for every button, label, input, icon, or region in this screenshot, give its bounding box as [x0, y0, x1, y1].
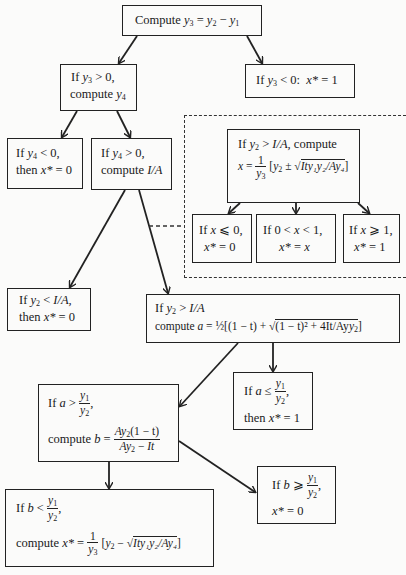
node-a-le: If a ≤ y1y2, then x* = 1	[233, 372, 313, 430]
node-y3-negative: If y3 < 0: x* = 1	[245, 64, 355, 98]
arrow-agt-to-bge	[179, 441, 255, 492]
node-a-gt: If a > y1y2, compute b = Ay2(1 − t) Ay2 …	[38, 384, 179, 462]
node-alt-compute-x: If y2 > I/A, compute x = 1y3 [y2 ± √Ity₁…	[227, 129, 360, 203]
arrow-y4pos-to-y2lt	[70, 190, 125, 287]
node-y2-gt-IA: If y2 > I/A compute a = ½[(1 − t) + √(1 …	[146, 294, 400, 343]
node-root: Compute y3 = y2 − y1	[122, 5, 262, 36]
arrow-root-to-y3-neg	[247, 36, 262, 63]
arrow-y2gt-to-agt	[180, 343, 238, 406]
arrow-y3pos-to-y4neg	[62, 111, 77, 137]
node-y4-positive: If y4 > 0, compute I/A	[91, 138, 172, 190]
node-b-ge: If b ⩾ y1y2, x* = 0	[257, 466, 336, 524]
node-y3-positive: If y3 > 0, compute y4	[60, 64, 137, 111]
node-y2-lt-IA: If y2 < I/A, then x* = 0	[7, 288, 91, 331]
node-x-between: If 0 < x < 1, x* = x	[256, 214, 336, 263]
label: Compute	[135, 13, 181, 27]
node-y4-negative: If y4 < 0, then x* = 0	[7, 138, 83, 189]
arrow-root-to-y3-pos	[119, 36, 137, 63]
node-b-lt: If b < y1y2, compute x* = 1y3 [y2 − √Ity…	[5, 489, 214, 567]
arrow-y4pos-to-y2gt	[139, 190, 168, 293]
node-x-ge-1: If x ⩾ 1, x* = 1	[343, 214, 400, 263]
arrow-y3pos-to-y4pos	[117, 111, 130, 137]
node-x-le-0: If x ⩽ 0, x* = 0	[192, 214, 252, 263]
